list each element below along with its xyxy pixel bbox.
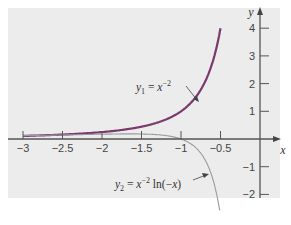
x-axis-label: x <box>279 143 286 157</box>
x-tick-label: −1 <box>175 142 188 154</box>
y-axis-label: y <box>247 5 254 19</box>
y-tick-label: 2 <box>249 78 255 90</box>
x-tick-label: −1.5 <box>131 142 153 154</box>
y-tick-label: −2 <box>242 188 255 200</box>
y-tick-label: 4 <box>249 22 255 34</box>
plot-panel <box>8 8 280 198</box>
x-tick-label: −2 <box>96 142 109 154</box>
y-tick-label: −1 <box>242 161 255 173</box>
chart: −3−2.5−2−1.5−1−0.54321−1−2xy y1 = x−2y2 … <box>0 0 291 225</box>
y-tick-label: 1 <box>249 105 255 117</box>
x-tick-label: −0.5 <box>210 142 232 154</box>
y-tick-label: 3 <box>249 50 255 62</box>
x-tick-label: −3 <box>17 142 30 154</box>
x-tick-label: −2.5 <box>52 142 74 154</box>
